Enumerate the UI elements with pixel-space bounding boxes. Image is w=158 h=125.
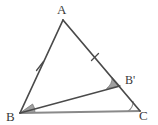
segment-BBprime	[20, 86, 120, 113]
segment-BC	[20, 111, 140, 113]
vertex-label-C: C	[139, 109, 148, 122]
vertex-label-A: A	[57, 3, 66, 16]
vertex-label-B-prime: B'	[125, 74, 135, 87]
segment-AB	[20, 20, 63, 113]
triangle-diagram-svg	[0, 0, 158, 125]
geometry-figure: A B C B'	[0, 0, 158, 125]
segment-AC	[63, 20, 140, 111]
vertex-label-B: B	[6, 110, 15, 123]
